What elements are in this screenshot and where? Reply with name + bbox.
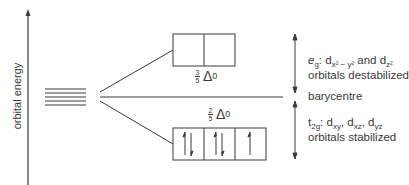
upper-split-fraction: 3 5 Δ0 [195, 68, 217, 84]
energy-gap-arrows [293, 34, 297, 159]
energy-axis [26, 9, 31, 185]
arrow-up-icon [26, 9, 31, 16]
arrow-down-icon [293, 153, 297, 159]
fraction-denominator: 5 [196, 77, 200, 84]
electron-spins [183, 132, 250, 156]
delta-subscript: 0 [225, 109, 230, 119]
fraction: 2 5 [208, 107, 213, 122]
arrow-down-icon [293, 87, 297, 93]
delta-subscript: 0 [212, 71, 217, 81]
eg-orbital-box [173, 34, 235, 66]
eg-label-line2: orbitals destabilized [308, 69, 409, 82]
lower-split-fraction: 2 5 Δ0 [208, 106, 230, 122]
arrow-up-icon [293, 34, 297, 40]
barycentre-label: barycentre [308, 90, 362, 103]
delta-symbol: Δ [216, 106, 225, 122]
splitting-lines [100, 50, 283, 144]
degenerate-orbitals [45, 89, 86, 105]
fraction-numerator: 3 [196, 69, 200, 76]
axis-label: orbital energy [11, 61, 23, 131]
fraction: 3 5 [195, 69, 200, 84]
fraction-numerator: 2 [209, 107, 213, 114]
t2g-orbital-box [173, 128, 266, 160]
delta-symbol: Δ [203, 68, 212, 84]
fraction-denominator: 5 [209, 115, 213, 122]
t2g-label-line2: orbitals stabilized [308, 131, 396, 144]
arrow-up-icon [293, 101, 297, 107]
